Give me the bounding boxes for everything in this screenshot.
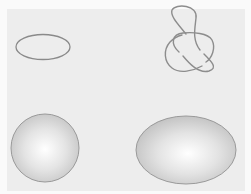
sphere-icon	[11, 114, 79, 182]
ellipse-curve-icon	[16, 35, 70, 60]
ellipsoid-icon	[136, 116, 236, 184]
figure-canvas	[0, 0, 251, 194]
trefoil-knot-icon	[165, 6, 213, 71]
